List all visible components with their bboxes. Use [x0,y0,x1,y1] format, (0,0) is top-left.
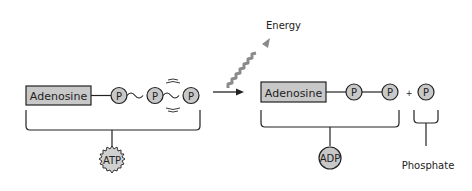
adp-molecule: Adenosine P P + P ADP Phosphate [261,82,454,171]
adp-label: ADP [320,153,341,164]
phosphate-label: P [116,91,122,102]
arrow-head-icon [236,89,244,96]
energy-arrowhead-icon [262,38,270,48]
adp-bracket [261,110,399,127]
high-energy-bond [163,93,179,98]
vibration-marks-icon [166,79,180,112]
atp-molecule: Adenosine P P P ATP [26,79,200,173]
energy-label: Energy [266,20,301,31]
energy-wave-icon [228,53,256,88]
phosphate-bracket [414,110,438,123]
adenosine-label-left: Adenosine [30,90,88,103]
plus-sign: + [406,89,413,98]
atp-hydrolysis-diagram: Adenosine P P P ATP Energy Adenosine P [0,0,472,191]
phosphate-label: P [188,91,194,102]
adenosine-label-right: Adenosine [265,87,323,100]
atp-label: ATP [103,155,121,166]
free-phosphate-label: P [423,87,429,98]
high-energy-bond [127,93,143,98]
phosphate-label: P [152,91,158,102]
atp-bracket [26,110,200,130]
phosphate-label: P [387,87,393,98]
phosphate-caption: Phosphate [402,160,455,171]
phosphate-label: P [351,87,357,98]
